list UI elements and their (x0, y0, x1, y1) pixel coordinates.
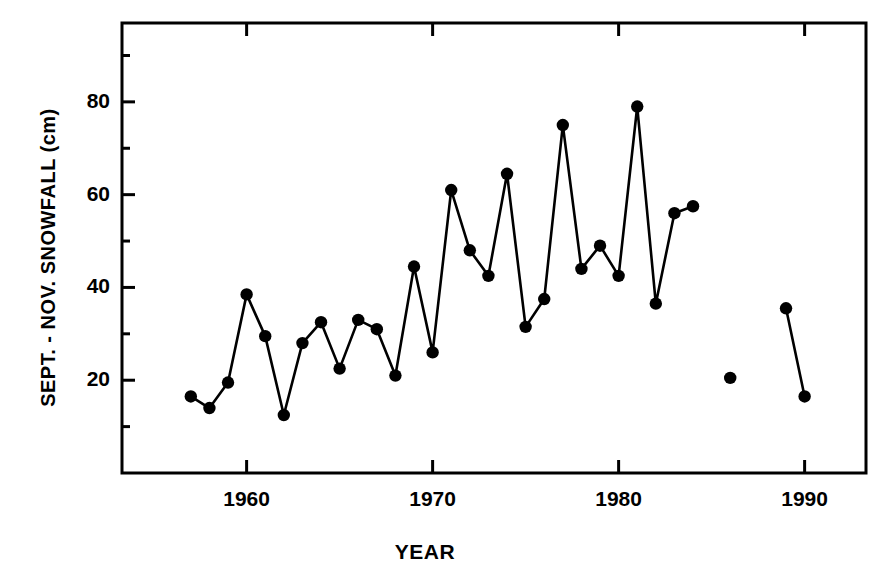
data-point (352, 314, 364, 326)
data-point (278, 409, 290, 421)
data-point (687, 200, 699, 212)
data-point (780, 302, 792, 314)
data-point (371, 323, 383, 335)
data-point (222, 376, 234, 388)
data-point (538, 293, 550, 305)
data-point (519, 321, 531, 333)
data-point (724, 372, 736, 384)
plot-area (0, 0, 896, 585)
x-axis-major-ticks (247, 23, 805, 473)
data-point (557, 119, 569, 131)
data-series-lines (191, 107, 805, 416)
data-line-segment-2 (786, 308, 805, 396)
data-series-markers (185, 100, 811, 421)
data-point (296, 337, 308, 349)
data-point (501, 168, 513, 180)
data-point (389, 369, 401, 381)
data-point (203, 402, 215, 414)
data-point (631, 100, 643, 112)
data-point (426, 346, 438, 358)
data-point (408, 260, 420, 272)
data-point (668, 207, 680, 219)
data-point (333, 362, 345, 374)
data-point (575, 263, 587, 275)
data-point (240, 288, 252, 300)
data-point (185, 390, 197, 402)
data-point (315, 316, 327, 328)
data-point (594, 239, 606, 251)
data-point (464, 244, 476, 256)
data-point (482, 270, 494, 282)
data-point (798, 390, 810, 402)
data-line-segment-0 (191, 107, 693, 416)
data-point (445, 184, 457, 196)
data-point (650, 297, 662, 309)
data-point (612, 270, 624, 282)
snowfall-chart-figure: SEPT. - NOV. SNOWFALL (cm) YEAR 20406080… (0, 0, 896, 585)
data-point (259, 330, 271, 342)
